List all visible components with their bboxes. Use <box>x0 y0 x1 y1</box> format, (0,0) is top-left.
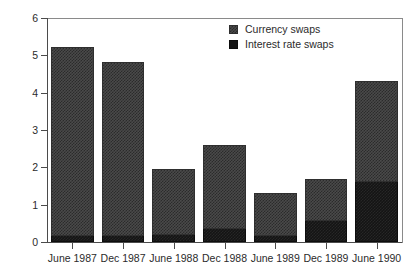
legend-item-interest-rate-swaps: Interest rate swaps <box>229 37 334 51</box>
bar-segment-interest-rate-swaps <box>305 221 348 242</box>
bar-segment-currency-swaps <box>355 81 398 182</box>
bar-segment-currency-swaps <box>254 193 297 236</box>
y-axis-tick-label: 4 <box>2 87 38 99</box>
currency-swatch-icon <box>229 25 238 34</box>
legend-label-interest-rate-swaps: Interest rate swaps <box>245 38 334 50</box>
x-axis-tick <box>275 243 276 249</box>
bar-segment-currency-swaps <box>203 145 246 229</box>
x-axis-tick <box>174 243 175 249</box>
bar-segment-currency-swaps <box>152 169 195 234</box>
x-axis-tick-label: June 1989 <box>251 252 300 264</box>
x-axis-tick-label: Dec 1988 <box>202 252 247 264</box>
bar-segment-interest-rate-swaps <box>203 229 246 242</box>
bar-segment-interest-rate-swaps <box>355 182 398 242</box>
bar-segment-currency-swaps <box>305 179 348 222</box>
x-axis-tick <box>123 243 124 249</box>
y-axis-tick-label: 1 <box>2 199 38 211</box>
bar-segment-interest-rate-swaps <box>152 235 195 242</box>
bar-segment-interest-rate-swaps <box>254 236 297 242</box>
bar-segment-interest-rate-swaps <box>51 236 94 242</box>
x-axis-tick <box>72 243 73 249</box>
y-axis-tick-label: 3 <box>2 124 38 136</box>
legend-label-currency-swaps: Currency swaps <box>245 23 320 35</box>
bar-june-1987 <box>51 47 94 242</box>
bar-dec-1989 <box>305 179 348 242</box>
y-axis-tick-label: 6 <box>2 12 38 24</box>
bar-june-1990 <box>355 81 398 242</box>
x-axis-tick-label: June 1990 <box>352 252 401 264</box>
x-axis-tick <box>326 243 327 249</box>
bar-segment-currency-swaps <box>51 47 94 236</box>
legend-item-currency-swaps: Currency swaps <box>229 22 334 36</box>
bar-june-1989 <box>254 193 297 242</box>
bar-segment-currency-swaps <box>102 62 145 236</box>
chart-container: NZ$bn 0123456 June 1987Dec 1987June 1988… <box>0 0 420 277</box>
x-axis-tick-label: Dec 1987 <box>101 252 146 264</box>
plot-area <box>47 18 402 242</box>
y-axis-tick-label: 5 <box>2 49 38 61</box>
bar-segment-interest-rate-swaps <box>102 236 145 242</box>
x-axis-tick <box>377 243 378 249</box>
y-axis-tick-label: 0 <box>2 236 38 248</box>
y-axis-tick-label: 2 <box>2 161 38 173</box>
bar-dec-1987 <box>102 62 145 242</box>
interest-swatch-icon <box>229 40 238 49</box>
right-spine-line <box>402 18 403 243</box>
y-axis-tick <box>41 242 48 243</box>
bar-dec-1988 <box>203 145 246 242</box>
x-axis-tick-label: June 1987 <box>48 252 97 264</box>
x-axis-tick <box>225 243 226 249</box>
x-axis-tick-label: June 1988 <box>149 252 198 264</box>
bar-june-1988 <box>152 169 195 242</box>
x-axis-tick-label: Dec 1989 <box>303 252 348 264</box>
chart-legend: Currency swaps Interest rate swaps <box>229 22 334 52</box>
